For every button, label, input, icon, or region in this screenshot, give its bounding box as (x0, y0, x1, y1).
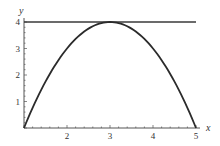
x-tick-label: 5 (194, 131, 199, 141)
x-axis-label: x (205, 122, 211, 133)
y-tick-label: 2 (16, 70, 21, 80)
tick-labels: 23451234 (16, 17, 199, 141)
x-tick-label: 3 (108, 131, 113, 141)
y-tick-label: 4 (16, 17, 21, 27)
x-tick-label: 4 (151, 131, 156, 141)
y-tick-label: 3 (16, 44, 21, 54)
x-tick-label: 2 (65, 131, 70, 141)
y-axis-label: y (18, 5, 24, 16)
parabola-curve (24, 22, 196, 128)
data-series (24, 22, 196, 128)
y-tick-label: 1 (16, 97, 21, 107)
chart: 23451234 x y (0, 0, 220, 146)
